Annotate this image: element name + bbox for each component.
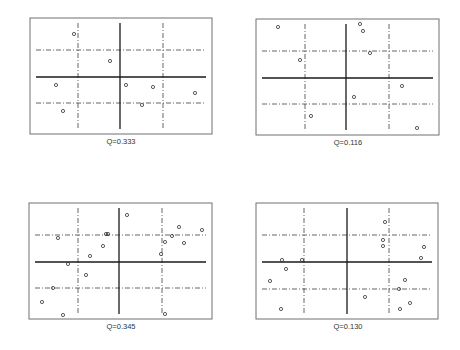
quadrant-scatter-figure: Q=0.333 Q=0.116 Q=0.345 Q=0.130 (0, 0, 460, 350)
data-point (408, 301, 411, 304)
scatter-panel-3 (29, 203, 212, 319)
panel-3-q-label: Q=0.345 (107, 322, 136, 331)
data-point (400, 84, 403, 87)
data-point (125, 213, 128, 216)
data-point (72, 32, 75, 35)
data-point (163, 240, 166, 243)
data-point (381, 238, 384, 241)
scatter-panel-2 (256, 19, 439, 135)
data-point (108, 59, 111, 62)
data-point (66, 262, 69, 265)
data-point (140, 103, 143, 106)
data-point (163, 312, 166, 315)
data-point (403, 278, 406, 281)
data-point (368, 51, 371, 54)
data-point (284, 267, 287, 270)
data-point (84, 273, 87, 276)
data-point (352, 95, 355, 98)
panel-1-q-label: Q=0.333 (107, 137, 136, 146)
data-point (177, 225, 180, 228)
panel-frame (256, 19, 439, 135)
data-point (422, 245, 425, 248)
data-point (61, 109, 64, 112)
data-point (200, 228, 203, 231)
panel-frame (30, 18, 212, 134)
data-point (151, 85, 154, 88)
data-point (363, 295, 366, 298)
data-point (300, 258, 303, 261)
data-point (358, 22, 361, 25)
data-point (40, 300, 43, 303)
data-point (415, 126, 418, 129)
data-point (276, 25, 279, 28)
data-point (279, 307, 282, 310)
data-point (298, 58, 301, 61)
data-point (280, 258, 283, 261)
panel-4-q-label: Q=0.130 (334, 322, 363, 331)
data-point (124, 83, 127, 86)
panel-2-q-label: Q=0.116 (334, 138, 362, 147)
data-point (54, 83, 57, 86)
data-point (182, 241, 185, 244)
data-point (268, 279, 271, 282)
panel-frame (29, 203, 212, 319)
data-point (56, 236, 59, 239)
data-point (88, 254, 91, 257)
data-point (398, 307, 401, 310)
data-point (361, 29, 364, 32)
data-point (309, 114, 312, 117)
scatter-panel-1 (30, 18, 212, 134)
data-point (193, 91, 196, 94)
data-point (381, 244, 384, 247)
data-point (383, 220, 386, 223)
data-point (159, 252, 162, 255)
data-point (101, 244, 104, 247)
data-point (61, 313, 64, 316)
scatter-panel-4 (256, 203, 438, 319)
data-point (419, 256, 422, 259)
